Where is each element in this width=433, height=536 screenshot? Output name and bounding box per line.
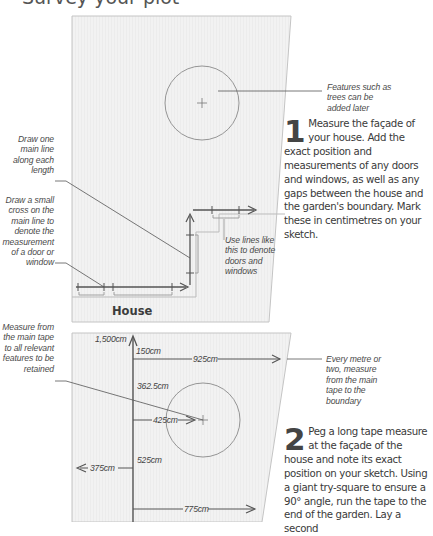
- annotation-measure-tape: Measure from the main tape to all releva…: [2, 322, 54, 374]
- measurement-150: 150cm: [136, 346, 161, 356]
- measurement-tape-length: 1,500cm: [95, 334, 127, 344]
- step-1-number: 1: [284, 119, 305, 143]
- measurement-925: 925cm: [193, 354, 218, 364]
- step-1: 1Measure the façade of your house. Add t…: [284, 117, 432, 242]
- annotation-main-line: Draw one main line along each length: [4, 134, 54, 176]
- step-2: 2Peg a long tape measure at the façade o…: [284, 425, 432, 536]
- annotation-features: Features such as trees can be added late…: [327, 82, 397, 113]
- annotation-cross: Draw a small cross on the main line to d…: [2, 195, 54, 268]
- house-label: House: [112, 304, 152, 318]
- measurement-362: 362.5cm: [137, 381, 169, 391]
- step-2-text: Peg a long tape measure at the façade of…: [284, 426, 427, 534]
- annotation-use-lines: Use lines like this to denote doors and …: [225, 235, 285, 277]
- plot-outline-2: [72, 333, 291, 522]
- measurement-425: 425cm: [153, 415, 178, 425]
- measurement-375: 375cm: [90, 463, 115, 473]
- measurement-775: 775cm: [184, 504, 209, 514]
- measurement-525: 525cm: [137, 455, 162, 465]
- annotation-every-metre: Every metre or two, measure from the mai…: [326, 354, 392, 406]
- step-2-number: 2: [284, 427, 305, 451]
